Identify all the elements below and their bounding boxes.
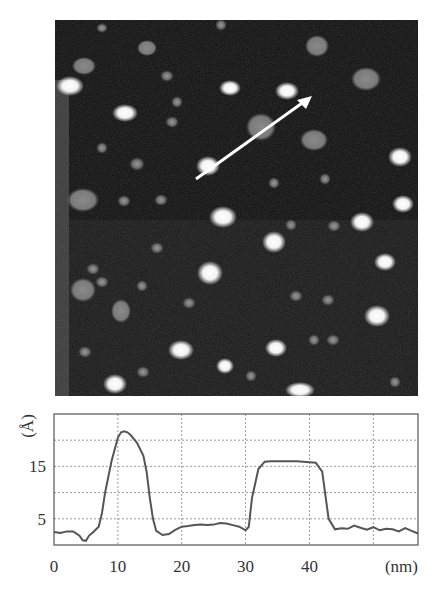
y-axis-label: (Å) <box>18 414 37 438</box>
particle <box>285 219 297 231</box>
particle <box>319 173 331 185</box>
particle <box>351 67 381 91</box>
particle <box>67 188 99 212</box>
particle <box>168 340 194 360</box>
particle <box>137 40 157 56</box>
particle <box>129 157 145 171</box>
height-profile-chart: 010203040 515 (nm) (Å) <box>0 400 444 606</box>
particle <box>389 376 401 388</box>
particle <box>78 346 92 358</box>
particle <box>197 261 223 285</box>
particle <box>165 116 179 128</box>
particle <box>95 276 109 288</box>
particle <box>216 358 234 374</box>
particle <box>275 82 299 100</box>
particle <box>70 278 96 302</box>
particle <box>245 370 257 382</box>
particle <box>96 142 108 154</box>
x-tick-label: 10 <box>109 557 126 576</box>
particle <box>326 334 340 346</box>
x-tick-label: 20 <box>173 557 190 576</box>
particle <box>308 334 320 346</box>
particle <box>96 23 108 33</box>
particle <box>86 263 100 275</box>
particle <box>350 212 374 232</box>
afm-topography-image <box>55 20 418 396</box>
particle <box>364 305 390 327</box>
particle <box>136 366 150 378</box>
particle <box>262 231 286 253</box>
particle <box>321 294 335 306</box>
particle <box>265 339 287 357</box>
particle <box>160 70 174 82</box>
particle <box>112 104 138 122</box>
x-tick-label: 30 <box>237 557 254 576</box>
particle <box>182 297 196 309</box>
particle <box>72 57 96 75</box>
particle <box>219 80 241 96</box>
particle <box>111 299 131 323</box>
particle <box>289 290 303 302</box>
y-tick-label: 5 <box>38 510 47 529</box>
particle <box>209 206 237 228</box>
particle <box>300 129 328 151</box>
x-tick-label: 0 <box>50 557 59 576</box>
particle <box>171 96 183 108</box>
particle <box>392 195 414 213</box>
x-tick-label: 40 <box>301 557 318 576</box>
particle <box>268 177 280 189</box>
y-tick-label: 15 <box>29 457 46 476</box>
particle <box>327 220 341 232</box>
particle <box>154 194 168 206</box>
particle <box>117 195 131 207</box>
particle <box>388 147 412 167</box>
particle <box>103 374 127 394</box>
height-profile-line <box>54 431 418 541</box>
particle <box>136 280 148 292</box>
particle <box>150 242 164 254</box>
particle <box>56 76 84 96</box>
particle <box>305 35 329 57</box>
x-axis-label: (nm) <box>385 557 418 576</box>
particle <box>374 253 396 271</box>
particle <box>246 113 276 141</box>
